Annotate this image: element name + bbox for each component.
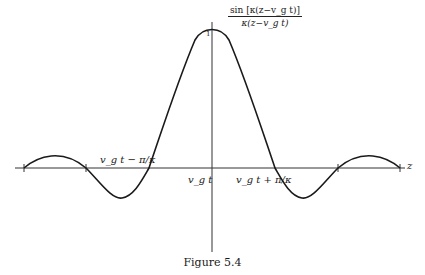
label-center: v_g t [188, 174, 212, 185]
figure-caption: Figure 5.4 [0, 256, 425, 269]
y-label-denominator: κ(z−v_g t) [228, 17, 302, 28]
x-axis-label: z [407, 160, 412, 171]
sinc-plot [0, 0, 425, 275]
label-left-zero: v_g t − π/κ [100, 154, 155, 165]
y-tick-1: 1 [206, 30, 210, 38]
y-axis-label: sin [κ(z−v_g t)] κ(z−v_g t) [228, 5, 302, 28]
y-label-numerator: sin [κ(z−v_g t)] [228, 5, 302, 17]
label-right-zero: v_g t + π/κ [236, 174, 291, 185]
